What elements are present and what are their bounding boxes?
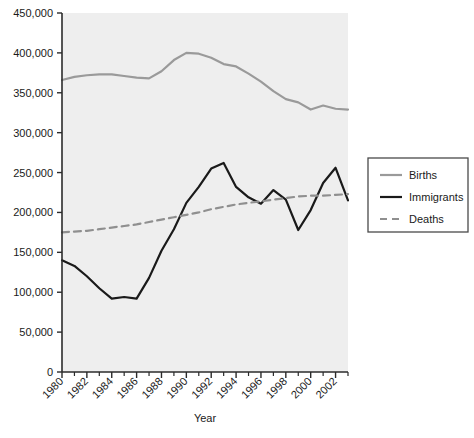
legend-label-immigrants: Immigrants [409,191,464,203]
y-tick-label: 300,000 [13,127,53,139]
y-tick-label: 200,000 [13,206,53,218]
plot-area-background [62,13,348,372]
y-tick-label: 50,000 [19,326,53,338]
x-axis-title: Year [194,412,217,424]
y-tick-label: 100,000 [13,286,53,298]
y-tick-label: 450,000 [13,7,53,19]
y-tick-label: 350,000 [13,87,53,99]
legend-label-births: Births [409,169,438,181]
y-tick-label: 0 [47,366,53,378]
y-tick-label: 150,000 [13,246,53,258]
chart-figure: 050,000100,000150,000200,000250,000300,0… [0,0,474,438]
legend-label-deaths: Deaths [409,213,444,225]
y-tick-label: 250,000 [13,167,53,179]
y-tick-label: 400,000 [13,47,53,59]
chart-legend: BirthsImmigrantsDeaths [368,158,468,232]
line-chart-svg: 050,000100,000150,000200,000250,000300,0… [0,0,474,438]
